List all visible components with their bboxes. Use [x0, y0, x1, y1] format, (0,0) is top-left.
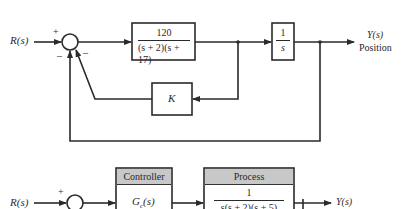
controller-label: Gc(s) — [132, 195, 155, 209]
output-caption: Position — [359, 42, 392, 53]
summing-junction — [62, 34, 78, 50]
output-label-2: Y(s) — [336, 196, 352, 207]
process-transfer-function: 1 s(s + 2)(s + 5) — [214, 187, 284, 209]
process-header: Process — [205, 169, 293, 185]
feedback-gain-label: K — [168, 92, 175, 104]
sum-sign-minus-outer: – — [57, 50, 62, 61]
output-label: Y(s) — [367, 29, 383, 40]
forward-transfer-function: 120 (s + 2)(s + 17) — [138, 27, 190, 66]
sum-sign-plus-2: + — [58, 186, 64, 197]
controller-header: Controller — [117, 169, 171, 185]
input-label-2: R(s) — [10, 196, 28, 208]
sum-sign-minus-inner: – — [83, 47, 88, 58]
block-diagram-lines — [0, 0, 401, 209]
input-label: R(s) — [10, 34, 28, 46]
sum-sign-plus: + — [53, 26, 59, 37]
summing-junction-2 — [67, 195, 83, 209]
integrator-transfer-function: 1 s — [276, 27, 290, 54]
